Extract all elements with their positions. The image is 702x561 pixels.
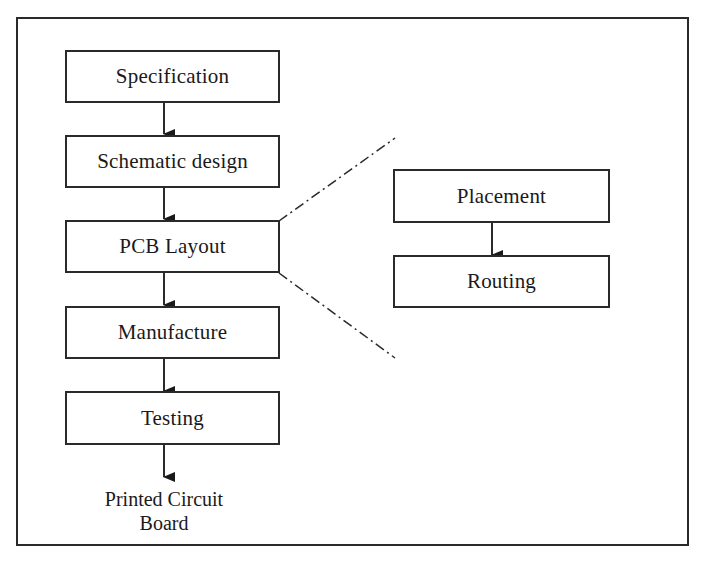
expansion-line-top xyxy=(279,138,395,221)
step-testing: Testing xyxy=(65,391,280,445)
output-label-line2: Board xyxy=(84,511,244,535)
step-label: Routing xyxy=(467,269,536,294)
step-pcb-layout: PCB Layout xyxy=(65,220,280,273)
step-label: PCB Layout xyxy=(119,234,225,259)
output-label-line1: Printed Circuit xyxy=(84,487,244,511)
diagram-canvas: Specification Schematic design PCB Layou… xyxy=(0,0,702,561)
step-placement: Placement xyxy=(393,169,610,223)
step-routing: Routing xyxy=(393,255,610,308)
expansion-line-bottom xyxy=(279,273,395,358)
output-printed-circuit-board: Printed Circuit Board xyxy=(84,487,244,535)
step-schematic-design: Schematic design xyxy=(65,135,280,188)
step-label: Schematic design xyxy=(97,149,248,174)
step-manufacture: Manufacture xyxy=(65,306,280,359)
step-label: Specification xyxy=(116,64,229,89)
step-specification: Specification xyxy=(65,50,280,103)
step-label: Manufacture xyxy=(118,320,227,345)
step-label: Testing xyxy=(141,406,204,431)
step-label: Placement xyxy=(457,184,546,209)
